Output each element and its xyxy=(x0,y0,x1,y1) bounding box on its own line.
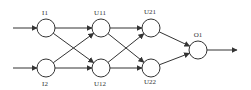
node-label-i2: I2 xyxy=(42,80,48,88)
neural-network-diagram: I1I2U11U12U21U22O1 xyxy=(0,0,251,90)
node-i1 xyxy=(37,19,55,37)
node-label-u22: U22 xyxy=(144,78,157,86)
node-label-i1: I1 xyxy=(42,9,48,17)
node-label-o1: O1 xyxy=(194,31,203,39)
node-u21 xyxy=(142,19,160,37)
node-i2 xyxy=(37,59,55,77)
node-label-u21: U21 xyxy=(144,8,157,16)
edge-u22-to-o1 xyxy=(159,53,189,65)
node-u12 xyxy=(92,59,110,77)
edge-u21-to-o1 xyxy=(159,32,190,46)
node-u22 xyxy=(142,59,160,77)
node-u11 xyxy=(92,19,110,37)
nodes: I1I2U11U12U21U22O1 xyxy=(37,8,207,88)
node-o1 xyxy=(189,41,207,59)
node-label-u12: U12 xyxy=(94,80,107,88)
node-label-u11: U11 xyxy=(94,9,106,17)
